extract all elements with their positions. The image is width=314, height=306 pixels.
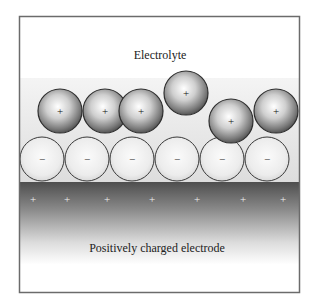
plus-sign-icon: + (183, 87, 189, 99)
electrode-plus-icon: + (149, 193, 155, 205)
plus-sign-icon: + (273, 105, 279, 117)
minus-sign-icon: − (264, 153, 270, 165)
plus-sign-icon: + (138, 105, 144, 117)
electrode-region (20, 182, 299, 292)
cation: + (254, 89, 298, 133)
minus-sign-icon: − (39, 153, 45, 165)
plus-sign-icon: + (228, 115, 234, 127)
cation: + (164, 71, 208, 115)
electrode-plus-icon: + (240, 193, 246, 205)
anion: − (20, 137, 64, 181)
anion: − (155, 137, 199, 181)
electric-double-layer-diagram: +++++++ −−−−−− ++++++ Electrolyte Positi… (0, 0, 314, 306)
electrode-plus-icon: + (194, 193, 200, 205)
cation: + (209, 99, 253, 143)
electrode-plus-icon: + (104, 193, 110, 205)
diagram-canvas: +++++++ −−−−−− ++++++ Electrolyte Positi… (0, 0, 314, 306)
plus-sign-icon: + (57, 105, 63, 117)
anion: − (200, 137, 244, 181)
electrolyte-label: Electrolyte (134, 48, 187, 62)
minus-sign-icon: − (219, 153, 225, 165)
anion: − (245, 137, 289, 181)
anion: − (65, 137, 109, 181)
minus-sign-icon: − (129, 153, 135, 165)
electrode-label: Positively charged electrode (89, 241, 225, 255)
plus-sign-icon: + (102, 105, 108, 117)
electrode-plus-icon: + (280, 193, 286, 205)
cation: + (119, 89, 163, 133)
electrode-plus-icon: + (64, 193, 70, 205)
cation: + (38, 89, 82, 133)
electrode-plus-icon: + (30, 193, 36, 205)
minus-sign-icon: − (174, 153, 180, 165)
anion: − (110, 137, 154, 181)
minus-sign-icon: − (84, 153, 90, 165)
